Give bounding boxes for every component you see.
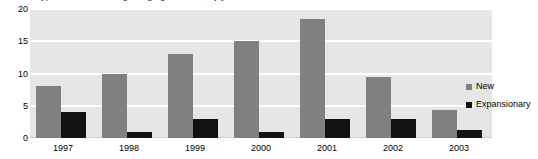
bar-new-1997: [36, 86, 61, 138]
bar-new-2001: [300, 19, 325, 138]
bar-expansionary-1999: [193, 119, 218, 138]
x-axis-tick-2003: 2003: [429, 141, 489, 155]
bars-layer: [30, 9, 492, 138]
legend-label: Expansionary: [476, 100, 531, 109]
bar-expansionary-2001: [325, 119, 350, 138]
x-axis-tick-2000: 2000: [231, 141, 291, 155]
bar-new-2000: [234, 41, 259, 138]
x-axis-tick-2002: 2002: [363, 141, 423, 155]
x-axis-tick-1999: 1999: [165, 141, 225, 155]
y-axis-tick-5: 5: [2, 101, 28, 110]
y-axis-tick-0: 0: [2, 134, 28, 143]
legend-item-expansionary[interactable]: Expansionary: [466, 100, 531, 109]
y-axis-tick-10: 10: [2, 69, 28, 78]
bar-group-1999: [168, 9, 218, 138]
legend-item-new[interactable]: New: [466, 82, 531, 91]
x-axis-tick-2001: 2001: [297, 141, 357, 155]
bar-group-2000: [234, 9, 284, 138]
bar-new-2003: [432, 110, 457, 138]
bar-expansionary-2002: [391, 119, 416, 138]
bar-group-2002: [366, 9, 416, 138]
chart-title: Type of collective bargaining agreements…: [36, 0, 239, 1]
chart-legend: NewExpansionary: [466, 82, 531, 109]
bar-expansionary-1997: [61, 112, 86, 138]
bar-group-2001: [300, 9, 350, 138]
x-axis-tick-1997: 1997: [33, 141, 93, 155]
legend-swatch-icon-new: [466, 84, 472, 90]
bar-group-2003: [432, 9, 482, 138]
legend-label: New: [476, 82, 494, 91]
bar-group-1997: [36, 9, 86, 138]
bar-chart: Type of collective bargaining agreements…: [0, 0, 538, 159]
bar-group-1998: [102, 9, 152, 138]
bar-new-2002: [366, 77, 391, 138]
bar-expansionary-1998: [127, 132, 152, 138]
x-axis: 1997199819992000200120022003: [30, 141, 492, 159]
y-axis-tick-20: 20: [2, 5, 28, 14]
x-axis-tick-1998: 1998: [99, 141, 159, 155]
bar-expansionary-2000: [259, 132, 284, 138]
y-axis: 05101520: [0, 0, 28, 159]
legend-swatch-icon-expansionary: [466, 102, 472, 108]
bar-new-1999: [168, 54, 193, 138]
y-axis-tick-15: 15: [2, 37, 28, 46]
bar-expansionary-2003: [457, 130, 482, 138]
bar-new-1998: [102, 74, 127, 139]
